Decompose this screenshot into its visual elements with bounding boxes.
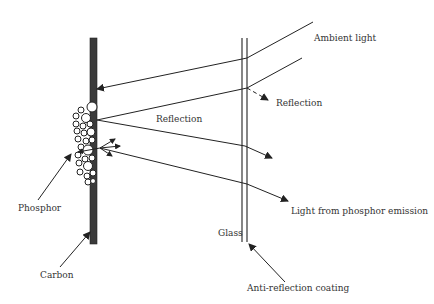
anti-reflection-callout-arrow xyxy=(249,244,285,282)
label-reflection-phosphor: Reflection xyxy=(156,115,202,124)
phosphor-reflection-ray xyxy=(97,120,272,158)
carbon-callout-arrow xyxy=(60,232,90,267)
glass-reflection-ray xyxy=(247,88,268,100)
label-glass: Glass xyxy=(218,229,243,238)
label-reflection-glass: Reflection xyxy=(276,99,322,108)
label-light-emission: Light from phosphor emission xyxy=(291,207,428,216)
ambient-light-ray-upper xyxy=(97,22,313,89)
phosphor-callout-arrow xyxy=(38,154,71,200)
ambient-light-ray-lower xyxy=(97,58,302,120)
label-ambient-light: Ambient light xyxy=(314,34,376,43)
label-phosphor: Phosphor xyxy=(18,204,61,213)
phosphor-emission-ray xyxy=(100,148,288,201)
diagram-canvas xyxy=(0,0,434,304)
label-anti-reflection: Anti-reflection coating xyxy=(247,284,349,293)
label-carbon: Carbon xyxy=(40,271,74,280)
